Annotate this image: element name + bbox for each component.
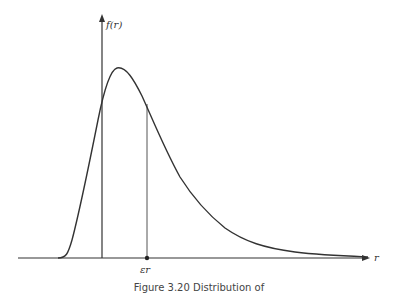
y-axis-arrow-icon	[99, 14, 105, 22]
expected-value-label: εr	[140, 264, 151, 275]
x-axis-label: r	[374, 252, 380, 263]
expected-value-marker	[145, 256, 149, 260]
x-axis-arrow-icon	[362, 255, 370, 261]
density-curve	[58, 68, 368, 258]
y-axis-label: f(r)	[105, 19, 122, 30]
figure-caption: Figure 3.20 Distribution of	[0, 282, 398, 293]
chart-svg: f(r) r εr	[0, 0, 398, 293]
